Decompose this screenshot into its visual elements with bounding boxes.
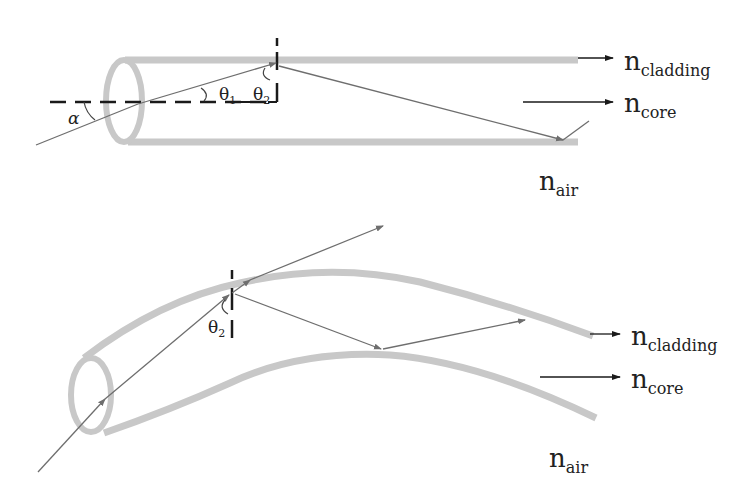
- alpha-label: α: [68, 108, 80, 128]
- reflected-ray: [279, 66, 563, 140]
- straight-fiber-diagram: α θ1 θ2 ncladding ncore nair: [36, 38, 711, 200]
- bent-reflected-ray: [235, 294, 381, 349]
- bent-n-cladding-label: ncladding: [631, 321, 718, 355]
- theta1-angle-arc: [201, 88, 206, 101]
- bent-fiber-entrance-ring: [71, 358, 111, 432]
- bent-fiber-diagram: θ2 ncladding ncore nair: [38, 226, 718, 477]
- bent-theta2-angle-arc: [222, 300, 228, 314]
- n-cladding-label: ncladding: [624, 46, 711, 80]
- fiber-optics-diagram: α θ1 θ2 ncladding ncore nair: [0, 0, 744, 498]
- n-air-label: nair: [539, 166, 578, 200]
- alpha-angle-arc: [84, 102, 95, 120]
- bent-second-reflection-ray: [383, 320, 525, 349]
- theta1-label: θ1: [219, 84, 236, 107]
- n-core-label: ncore: [624, 88, 676, 122]
- reflected-ray-continued: [563, 121, 589, 140]
- theta2-label: θ2: [253, 84, 270, 107]
- bent-n-core-label: ncore: [631, 364, 683, 398]
- bent-n-air-label: nair: [549, 443, 588, 477]
- bent-theta2-label: θ2: [208, 317, 225, 340]
- theta2-angle-arc: [263, 68, 270, 80]
- bent-fiber-bottom-wall: [104, 354, 596, 433]
- bent-fiber-top-wall: [84, 272, 593, 358]
